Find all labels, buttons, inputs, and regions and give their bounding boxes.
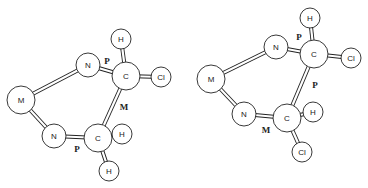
atom-h: H (300, 8, 320, 28)
molecule-diagram: MNNCCHClHHPMP MNNCCHClHClPPM (0, 0, 368, 188)
atom-label: C (95, 134, 101, 143)
helicity-label: P (296, 32, 302, 42)
atom-label: H (307, 14, 313, 23)
helicity-label: M (120, 102, 129, 112)
atom-c: C (84, 124, 112, 152)
atom-label: H (119, 130, 125, 139)
helicity-label: P (104, 56, 110, 66)
atom-label: Cl (298, 148, 306, 157)
molecule-left: MNNCCHClHHPMP (7, 29, 171, 181)
atom-label: N (51, 132, 57, 141)
atom-n: N (232, 102, 256, 126)
atom-cl: Cl (341, 48, 361, 68)
helicity-label: M (262, 125, 271, 135)
atom-c: C (112, 62, 140, 90)
atom-h: H (112, 124, 132, 144)
atom-n: N (264, 35, 288, 59)
atom-label: H (106, 167, 112, 176)
atom-label: Cl (157, 73, 165, 82)
atom-label: M (18, 96, 25, 105)
atom-label: N (241, 110, 247, 119)
helicity-label: P (312, 80, 318, 90)
atom-h: H (99, 161, 119, 181)
atom-n: N (42, 124, 66, 148)
atom-m: M (197, 65, 225, 93)
atom-label: C (123, 72, 129, 81)
atom-cl: Cl (151, 67, 171, 87)
atom-h: H (111, 29, 131, 49)
atom-m: M (7, 86, 35, 114)
atom-label: C (311, 50, 317, 59)
molecule-right: MNNCCHClHClPPM (197, 8, 361, 162)
atom-label: N (85, 61, 91, 70)
atom-label: Cl (347, 54, 355, 63)
helicity-label: P (74, 144, 80, 154)
atom-label: M (208, 75, 215, 84)
atom-label: H (118, 35, 124, 44)
atom-h: H (303, 102, 323, 122)
atom-label: C (284, 114, 290, 123)
atom-c: C (273, 104, 301, 132)
atom-label: N (273, 43, 279, 52)
atom-cl: Cl (292, 142, 312, 162)
atom-label: H (310, 108, 316, 117)
atom-n: N (76, 53, 100, 77)
atom-c: C (300, 40, 328, 68)
